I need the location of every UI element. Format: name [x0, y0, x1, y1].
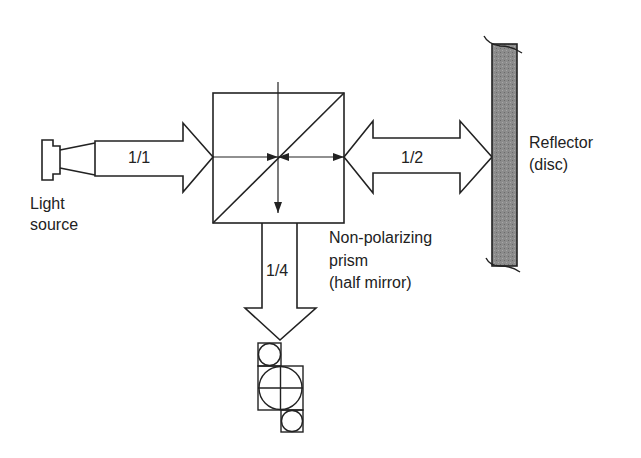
light-source-label-2: source	[30, 215, 78, 234]
prism-label-2: prism	[329, 251, 368, 270]
reflector-label-1: Reflector	[529, 133, 593, 152]
incident-beam-label: 1/1	[128, 149, 150, 167]
prism-label-1: Non-polarizing	[329, 228, 432, 247]
light-source-label-1: Light	[30, 194, 65, 213]
incident-beam-arrow	[95, 123, 213, 192]
light-source-icon	[42, 140, 95, 180]
detector-beam-arrow	[245, 223, 316, 340]
reflector-label-2: (disc)	[529, 155, 568, 174]
prism-icon	[213, 82, 344, 223]
photodetector-icon	[258, 343, 303, 432]
diagram-canvas	[0, 0, 641, 458]
disc-beam-label: 1/2	[401, 149, 423, 167]
prism-label-3: (half mirror)	[329, 273, 412, 292]
detector-beam-label: 1/4	[266, 262, 288, 280]
